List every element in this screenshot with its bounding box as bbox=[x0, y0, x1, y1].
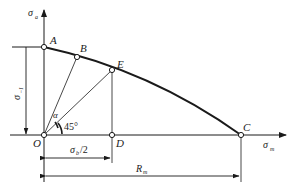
label-a: A bbox=[49, 34, 57, 46]
svg-text:/2: /2 bbox=[80, 144, 88, 155]
label-45: 45° bbox=[64, 121, 78, 132]
point-b bbox=[74, 54, 79, 59]
label-alpha: α bbox=[53, 110, 58, 120]
svg-text:a: a bbox=[35, 14, 38, 20]
svg-text:σ: σ bbox=[28, 7, 34, 18]
svg-text:b: b bbox=[76, 150, 79, 156]
y-axis-label: σ a bbox=[28, 7, 38, 20]
point-d bbox=[109, 132, 114, 137]
ray-oe bbox=[44, 70, 112, 135]
svg-text:m: m bbox=[143, 169, 148, 175]
point-c bbox=[238, 132, 243, 137]
point-a bbox=[41, 44, 46, 49]
alpha-arc bbox=[55, 122, 58, 128]
point-e bbox=[109, 67, 114, 72]
svg-text:R: R bbox=[135, 163, 142, 174]
svg-text:−1: −1 bbox=[18, 87, 24, 94]
label-c: C bbox=[243, 121, 251, 133]
sigma-b-half-label: σ b /2 bbox=[70, 144, 88, 156]
label-d: D bbox=[115, 137, 124, 149]
point-o bbox=[41, 132, 46, 137]
svg-text:m: m bbox=[270, 146, 275, 152]
angle-45-arc bbox=[58, 123, 62, 134]
x-axis-label: σ m bbox=[263, 139, 275, 152]
fatigue-diagram: A B E C O D α 45° σ a σ m σ −1 σ b /2 R … bbox=[0, 0, 294, 192]
svg-text:σ: σ bbox=[263, 139, 269, 150]
rm-label: R m bbox=[135, 163, 148, 175]
sigma-minus1-label: σ −1 bbox=[11, 87, 24, 100]
label-b: B bbox=[80, 42, 87, 54]
label-o: O bbox=[33, 137, 41, 149]
label-e: E bbox=[116, 58, 124, 70]
